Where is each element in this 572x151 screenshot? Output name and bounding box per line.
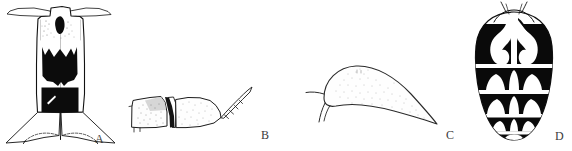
figure-d-dorsal-abdomen [468, 2, 560, 144]
figure-label-a: A [95, 133, 104, 145]
figure-a-blotch-lower [42, 88, 79, 113]
figure-d-suture-1 [474, 64, 554, 68]
figure-label-c: C [446, 129, 454, 141]
figure-c-teardrop-structure [306, 58, 446, 136]
figure-d-projection-left [501, 2, 506, 12]
figure-b-basal-nick [129, 106, 132, 107]
figure-d-band1-keel [510, 25, 517, 64]
figure-b-terminal-process [221, 87, 252, 118]
figure-d-terminal-pale-spot [505, 135, 523, 144]
figure-d-suture-2 [474, 90, 554, 94]
figure-a-lobe-right [61, 113, 115, 144]
figure-a-collar-left [7, 8, 52, 16]
figure-a-blotch-upper [42, 47, 78, 86]
figure-c-projection-upper [306, 92, 324, 94]
illustration-plate: A [0, 0, 572, 151]
figure-c-body-outline [324, 66, 437, 124]
figure-c-projection-lower-inner [324, 106, 330, 122]
figure-a-collar-right [68, 8, 111, 16]
figure-a-ventral-abdomen [4, 2, 119, 148]
figure-a-lobe-left [6, 113, 60, 144]
figure-d-suture-4 [474, 132, 554, 135]
figure-b-lateral-appendage [128, 84, 258, 140]
figure-label-d: D [555, 130, 564, 142]
figure-d-projection-right [522, 2, 527, 12]
figure-label-b: B [261, 129, 269, 141]
figure-b-segment-second [176, 98, 221, 128]
